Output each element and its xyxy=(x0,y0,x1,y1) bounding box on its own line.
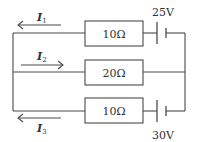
resistor-bottom-label: 10Ω xyxy=(102,105,125,118)
current-i2-label: I2 xyxy=(36,50,47,64)
resistor-top-label: 10Ω xyxy=(102,28,125,41)
resistor-middle-label: 20Ω xyxy=(102,67,125,80)
current-i1-label: I1 xyxy=(36,11,47,25)
branch-middle: 20Ω I2 xyxy=(13,50,185,85)
battery-top-label: 25V xyxy=(152,6,175,19)
circuit-diagram: 10Ω 25V I1 20Ω I2 10Ω 30V xyxy=(0,0,198,142)
branch-top: 10Ω 25V I1 xyxy=(13,6,185,46)
branch-bottom: 10Ω 30V I3 xyxy=(13,98,185,142)
battery-bottom-label: 30V xyxy=(152,129,175,142)
current-i3-label: I3 xyxy=(36,122,47,136)
